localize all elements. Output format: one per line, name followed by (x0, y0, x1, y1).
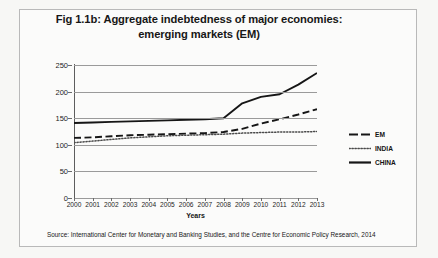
y-axis-tick-label: 50 (60, 167, 68, 176)
y-axis-tick-mark (68, 145, 72, 146)
legend-swatch-em-icon (349, 130, 371, 139)
x-axis-tick-label: 2013 (310, 201, 325, 208)
legend-swatch-india-icon (349, 144, 371, 153)
plot-area (74, 65, 317, 198)
y-axis-tick-label: 200 (55, 88, 68, 97)
legend-label: CHINA (375, 159, 396, 166)
x-axis-tick-label: 2012 (291, 201, 306, 208)
x-axis-tick-label: 2006 (179, 201, 194, 208)
legend-item-china[interactable]: CHINA (349, 155, 411, 169)
x-axis-tick-label: 2001 (85, 201, 100, 208)
x-axis-tick-label: 2002 (104, 201, 119, 208)
y-axis-tick-mark (68, 198, 72, 199)
x-axis-tick-label: 2003 (123, 201, 138, 208)
y-axis-tick-mark (68, 171, 72, 172)
x-axis-tick-label: 2011 (273, 201, 287, 208)
series-lines (74, 65, 317, 198)
legend-item-em[interactable]: EM (349, 127, 411, 141)
gridline (74, 145, 317, 146)
legend-label: INDIA (375, 145, 393, 152)
y-axis-tick-label: 150 (55, 114, 68, 123)
y-axis-tick-mark (68, 118, 72, 119)
series-line-china (74, 73, 317, 123)
source-note: Source: International Center for Monetar… (47, 231, 376, 238)
x-axis-tick-label: 2008 (216, 201, 231, 208)
chart-plot: Total debt, excluding financial institut… (0, 0, 438, 258)
legend-swatch-china-icon (349, 158, 371, 167)
y-axis-tick-label: 250 (55, 61, 68, 70)
y-axis-title-holder: Total debt, excluding financial institut… (36, 60, 37, 61)
x-axis-tick-label: 2010 (254, 201, 269, 208)
gridline (74, 92, 317, 93)
y-axis-tick-label: 100 (55, 141, 68, 150)
legend: EMINDIACHINA (349, 127, 411, 169)
x-axis-tick-label: 2000 (67, 201, 82, 208)
y-axis-tick-mark (68, 92, 72, 93)
series-line-em (74, 109, 317, 138)
y-axis-tick-labels: 050100150200250 (40, 65, 68, 198)
y-axis-tick-mark (68, 65, 72, 66)
gridline (74, 171, 317, 172)
x-axis-tick-label: 2004 (141, 201, 156, 208)
gridline (74, 118, 317, 119)
x-axis-tick-label: 2005 (160, 201, 175, 208)
legend-item-india[interactable]: INDIA (349, 141, 411, 155)
x-axis-tick-label: 2009 (235, 201, 250, 208)
x-axis-tick-label: 2007 (198, 201, 213, 208)
gridline (74, 65, 317, 66)
legend-label: EM (375, 131, 385, 138)
x-axis-title: Years (74, 212, 317, 219)
